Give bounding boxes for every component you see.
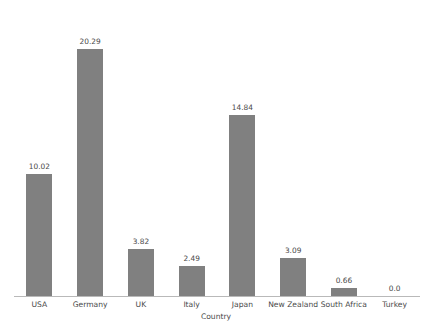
bar-value-label: 10.02 <box>29 162 50 171</box>
bar-rect <box>26 174 52 296</box>
bar-value-label: 0.0 <box>389 284 401 293</box>
bar-value-label: 3.09 <box>285 246 301 255</box>
x-tick-label-italy: Italy <box>183 300 199 310</box>
x-tick-label-turkey: Turkey <box>382 300 407 310</box>
x-tick-label-japan: Japan <box>232 300 253 310</box>
bar-rect <box>179 266 205 296</box>
bar-value-label: 3.82 <box>133 237 149 246</box>
bar-value-label: 14.84 <box>232 103 253 112</box>
bar-value-label: 20.29 <box>80 37 101 46</box>
bar-new-zealand: 3.09 <box>268 6 319 296</box>
bar-south-africa: 0.66 <box>319 6 370 296</box>
bar-uk: 3.82 <box>116 6 167 296</box>
bar-rect <box>229 115 255 296</box>
bar-japan: 14.84 <box>217 6 268 296</box>
bar-rect <box>331 288 357 296</box>
x-tick-label-south-africa: South Africa <box>321 300 367 310</box>
bar-rect <box>77 49 103 296</box>
bar-italy: 2.49 <box>166 6 217 296</box>
bar-chart: 10.0220.293.822.4914.843.090.660.0 USAGe… <box>0 0 432 334</box>
x-tick-label-uk: UK <box>136 300 147 310</box>
bar-usa: 10.02 <box>14 6 65 296</box>
bar-turkey: 0.0 <box>369 6 420 296</box>
x-tick-label-germany: Germany <box>73 300 108 310</box>
x-tick-label-usa: USA <box>32 300 48 310</box>
bar-germany: 20.29 <box>65 6 116 296</box>
x-axis-title: Country <box>0 312 432 322</box>
bar-value-label: 2.49 <box>183 254 199 263</box>
x-axis-line <box>14 296 420 297</box>
x-tick-label-new-zealand: New Zealand <box>268 300 318 310</box>
bar-value-label: 0.66 <box>336 276 352 285</box>
bar-rect <box>128 249 154 296</box>
bar-rect <box>280 258 306 296</box>
